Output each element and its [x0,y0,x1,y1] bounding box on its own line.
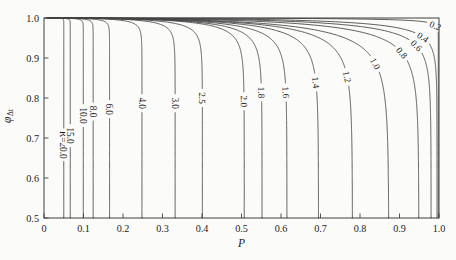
x-tick-label: 0.6 [275,223,288,234]
curve-R-15 [47,18,70,218]
curve-R-10 [47,18,83,218]
figure-canvas: R=20.015.010.08.06.04.03.02.52.01.81.61.… [0,0,456,260]
curve-label-text: 1.6 [280,86,290,98]
curve-label-text: 1.4 [310,76,321,89]
x-tick-label: 0.2 [117,223,130,234]
curve-label-R-1.8: 1.8 [256,83,267,101]
curve-label-text: 6.0 [104,103,114,115]
curve-label-text: 4.0 [137,97,147,109]
curve-label-R-1.2: 1.2 [340,67,354,87]
curve-R-0.2 [72,18,438,218]
curve-label-R-1.6: 1.6 [280,83,291,101]
curve-label-text: 1.8 [256,86,266,98]
curve-label-text: 3.0 [170,97,180,109]
curve-label-R-1.4: 1.4 [310,73,322,92]
x-tick-label: 0.1 [77,223,90,234]
x-tick-label: 0.8 [354,223,367,234]
y-tick-label: 1.0 [26,13,39,24]
x-tick-label: 0.4 [196,223,209,234]
curve-R-1 [50,18,388,218]
curve-label-R-1: 1.0 [367,53,385,74]
x-tick-label: 0.5 [235,223,248,234]
curve-label-text: 2.0 [239,95,249,107]
curve-label-text: 2.5 [197,92,207,104]
curve-label-R-4: 4.0 [137,94,147,112]
curve-label-R-2.5: 2.5 [197,89,207,107]
curve-label-R-15: 15.0 [65,124,75,147]
y-axis-title-subscript: Δt [6,108,15,116]
curve-label-R-3: 3.0 [170,94,180,112]
x-tick-label: 0.9 [393,223,406,234]
curve-label-R-6: 6.0 [104,100,114,118]
y-tick-label: 0.8 [26,93,39,104]
x-tick-label: 0 [41,223,46,234]
plot-frame [44,18,439,218]
axis-ticks [44,18,439,218]
curve-label-R-8: 8.0 [88,103,98,121]
curve-R-20 [47,18,64,218]
x-axis-title: P [237,237,245,249]
curve-label-R-2: 2.0 [239,92,250,110]
y-tick-label: 0.7 [26,133,39,144]
curve-label-R-0.2: 0.2 [425,17,446,33]
tick-labels: 00.10.20.30.40.50.60.70.80.91.01.00.90.8… [26,13,445,234]
curve-R-2.5 [49,18,202,218]
curve-label-R-10: 10.0 [78,104,88,127]
curve-label-text: 15.0 [65,127,75,144]
x-tick-label: 0.7 [314,223,327,234]
curve-label-text: 10.0 [78,107,88,124]
x-tick-label: 1.0 [433,223,446,234]
correction-factor-chart: R=20.015.010.08.06.04.03.02.52.01.81.61.… [0,0,456,260]
y-tick-label: 0.5 [26,213,39,224]
y-axis-title: φΔt [1,108,15,123]
y-tick-label: 0.9 [26,53,39,64]
x-tick-label: 0.3 [156,223,169,234]
curve-label-text: 1.2 [341,70,353,84]
curve-label-text: 8.0 [88,106,98,118]
y-tick-label: 0.6 [26,173,39,184]
